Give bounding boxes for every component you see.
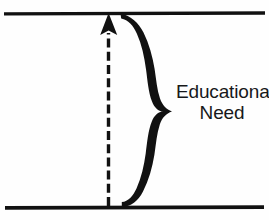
diagram-canvas: Educational Need — [0, 0, 269, 220]
label-line-need: Need — [176, 103, 268, 124]
right-curly-brace — [121, 14, 173, 207]
label-line-educational: Educational — [176, 82, 268, 103]
upper-reference-line — [4, 11, 265, 15]
lower-reference-line — [5, 205, 264, 210]
arrowhead-up-icon — [100, 13, 117, 35]
educational-need-label: Educational Need — [176, 82, 268, 124]
